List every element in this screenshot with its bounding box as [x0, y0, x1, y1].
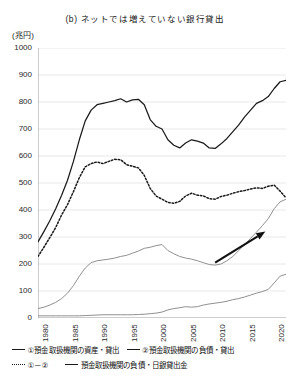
y-tick-label: 700 — [2, 125, 32, 133]
y-tick-label: 100 — [2, 287, 32, 295]
plot-area — [38, 48, 286, 318]
y-tick-label: 300 — [2, 233, 32, 241]
legend-item-liability-loan: ②預金取扱機関の負債・貸出 — [127, 344, 235, 355]
x-tick-label: 1985 — [72, 324, 80, 342]
legend-label-difference: ①－② — [28, 359, 49, 370]
data-series-layer — [38, 80, 286, 315]
legend-item-asset-loan: ①預金取扱機関の資産・貸出 — [12, 344, 120, 355]
x-tick-label: 1980 — [42, 324, 50, 342]
y-axis-unit-label: (兆円) — [12, 29, 34, 40]
legend-row-1: ①預金取扱機関の資産・貸出 ②預金取扱機関の負債・貸出 — [0, 342, 290, 357]
legend-label-boj-loan: 預金取扱機関の負債・日銀貸出金 — [81, 359, 188, 370]
x-tick-label: 1990 — [101, 324, 109, 342]
y-tick-label: 500 — [2, 179, 32, 187]
chart-plot-svg — [38, 48, 286, 318]
series-line-3 — [38, 274, 286, 316]
x-tick-label: 2000 — [160, 324, 168, 342]
legend-item-boj-loan: 預金取扱機関の負債・日銀貸出金 — [65, 359, 187, 370]
legend-swatch-solid2-icon — [127, 349, 140, 350]
y-tick-label: 600 — [2, 152, 32, 160]
y-tick-label: 0 — [2, 314, 32, 322]
y-tick-label: 400 — [2, 206, 32, 214]
legend-item-difference: ①－② — [12, 359, 48, 370]
chart-figure: (b) ネットでは増えていない銀行貸出 (兆円) 010020030040050… — [0, 0, 290, 381]
x-tick-label: 1995 — [131, 324, 139, 342]
x-tick-label: 2010 — [219, 324, 227, 342]
chart-legend: ①預金取扱機関の資産・貸出 ②預金取扱機関の負債・貸出 ①－② 預金取扱機関の負… — [0, 342, 290, 372]
series-line-0 — [38, 80, 286, 241]
legend-swatch-dotted-icon — [12, 364, 25, 365]
legend-swatch-solid3-icon — [65, 364, 78, 365]
y-tick-label: 200 — [2, 260, 32, 268]
legend-row-2: ①－② 預金取扱機関の負債・日銀貸出金 — [0, 357, 290, 372]
x-tick-label: 2005 — [190, 324, 198, 342]
annotation-arrow — [215, 232, 265, 263]
y-tick-label: 900 — [2, 71, 32, 79]
gridlines — [38, 48, 286, 291]
y-tick-label: 800 — [2, 98, 32, 106]
y-tick-label: 1000 — [2, 44, 32, 52]
x-tick-label: 2020 — [278, 324, 286, 342]
legend-swatch-solid-icon — [12, 349, 25, 350]
chart-title: (b) ネットでは増えていない銀行貸出 — [0, 12, 290, 24]
x-tick-label: 2015 — [249, 324, 257, 342]
series-line-1 — [38, 199, 286, 308]
legend-label-liability-loan: ②預金取扱機関の負債・貸出 — [142, 344, 234, 355]
legend-label-asset-loan: ①預金取扱機関の資産・貸出 — [28, 344, 120, 355]
